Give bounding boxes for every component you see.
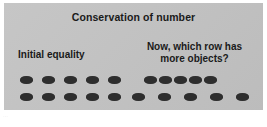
object-dot: [42, 93, 55, 101]
object-dot: [42, 76, 55, 84]
object-dot: [108, 76, 121, 84]
object-dot: [20, 93, 33, 101]
figure-title: Conservation of number: [4, 11, 263, 23]
object-dot: [174, 76, 187, 84]
right-bottom-row: [132, 93, 250, 102]
object-dot: [159, 76, 172, 84]
conservation-of-number-figure: Conservation of number Initial equality …: [4, 3, 263, 110]
right-top-row: [144, 76, 216, 85]
left-bottom-row: [20, 93, 124, 102]
object-dot: [132, 93, 145, 101]
object-dot: [189, 76, 202, 84]
object-dot: [158, 93, 171, 101]
object-dot: [236, 93, 249, 101]
object-dot: [64, 76, 77, 84]
left-panel-label: Initial equality: [18, 49, 138, 61]
object-dot: [144, 76, 157, 84]
right-panel-label-line2: more objects?: [132, 53, 257, 65]
right-panel-label-line1: Now, which row has: [132, 41, 257, 53]
object-dot: [64, 93, 77, 101]
object-dot: [210, 93, 223, 101]
object-dot: [86, 76, 99, 84]
left-top-row: [20, 76, 124, 85]
object-dot: [20, 76, 33, 84]
object-dot: [86, 93, 99, 101]
object-dot: [184, 93, 197, 101]
right-panel-label: Now, which row has more objects?: [132, 41, 257, 65]
object-dot: [108, 93, 121, 101]
object-dot: [204, 76, 217, 84]
caption-artifact: ...: [3, 112, 29, 120]
